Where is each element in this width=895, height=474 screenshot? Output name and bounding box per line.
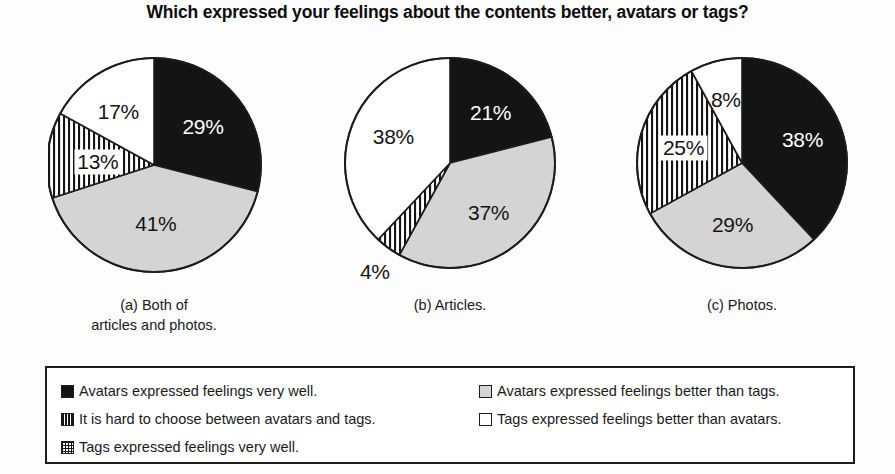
- legend-label: Tags expressed feelings very well.: [79, 439, 299, 455]
- pie-charts-row: 29%41%13%17%21%37%4%38%38%29%25%8%: [0, 40, 895, 290]
- slice-label-c-avatars-very-well: 38%: [782, 128, 823, 152]
- legend-swatch-white-icon: [479, 413, 492, 426]
- pie-caption-c-line1: (c) Photos.: [582, 295, 895, 315]
- legend-swatch-vstripe-icon: [61, 413, 74, 426]
- legend-label: Avatars expressed feelings very well.: [79, 383, 317, 399]
- pie-chart-a: 29%41%13%17%: [48, 40, 298, 290]
- slice-label-b-tags-better-than-avatars: 38%: [373, 125, 414, 149]
- pie-caption-c: (c) Photos.: [582, 295, 895, 315]
- slice-label-c-avatars-better-than-tags: 29%: [712, 213, 753, 237]
- legend-box: Avatars expressed feelings very well.It …: [45, 366, 855, 464]
- pie-chart-c: 38%29%25%8%: [636, 40, 886, 290]
- slice-label-b-hard-to-choose: 4%: [360, 260, 390, 284]
- legend-column-left: Avatars expressed feelings very well.It …: [61, 378, 481, 462]
- slice-label-a-avatars-better-than-tags: 41%: [135, 212, 176, 236]
- pie-caption-a-line1: (a) Both of: [0, 295, 314, 315]
- slice-label-c-hard-to-choose: 25%: [660, 135, 707, 160]
- legend-swatch-solid-black-icon: [61, 385, 74, 398]
- pie-caption-a: (a) Both ofarticles and photos.: [0, 295, 314, 335]
- slice-label-a-avatars-very-well: 29%: [182, 115, 223, 139]
- slice-label-c-tags-better-than-avatars: 8%: [711, 88, 741, 112]
- legend-column-right: Avatars expressed feelings better than t…: [479, 378, 849, 434]
- slice-label-b-avatars-very-well: 21%: [470, 101, 511, 125]
- slice-label-a-tags-better-than-avatars: 17%: [98, 100, 139, 124]
- pie-caption-a-line2: articles and photos.: [0, 315, 314, 335]
- legend-label: Avatars expressed feelings better than t…: [497, 383, 780, 399]
- slice-label-a-hard-to-choose: 13%: [74, 150, 121, 175]
- legend-item-avatars-expressed-feelings-better-than-t: Avatars expressed feelings better than t…: [479, 378, 849, 404]
- legend-label: Tags expressed feelings better than avat…: [497, 411, 782, 427]
- slice-label-b-avatars-better-than-tags: 37%: [468, 201, 509, 225]
- pie-caption-b-line1: (b) Articles.: [290, 295, 610, 315]
- legend-swatch-crosshatch-icon: [61, 441, 74, 454]
- pie-svg-b: [344, 40, 594, 290]
- figure-root: Which expressed your feelings about the …: [0, 0, 895, 474]
- legend-item-tags-expressed-feelings-better-than-avat: Tags expressed feelings better than avat…: [479, 406, 849, 432]
- pie-svg-c: [636, 40, 886, 290]
- legend-label: It is hard to choose between avatars and…: [79, 411, 376, 427]
- legend-item-tags-expressed-feelings-very-well: Tags expressed feelings very well.: [61, 434, 481, 460]
- page-title: Which expressed your feelings about the …: [0, 2, 895, 23]
- legend-item-avatars-expressed-feelings-very-well: Avatars expressed feelings very well.: [61, 378, 481, 404]
- pie-caption-b: (b) Articles.: [290, 295, 610, 315]
- legend-swatch-lightgray-icon: [479, 385, 492, 398]
- legend-item-it-is-hard-to-choose-between-avatars-and: It is hard to choose between avatars and…: [61, 406, 481, 432]
- pie-chart-b: 21%37%4%38%: [344, 40, 594, 290]
